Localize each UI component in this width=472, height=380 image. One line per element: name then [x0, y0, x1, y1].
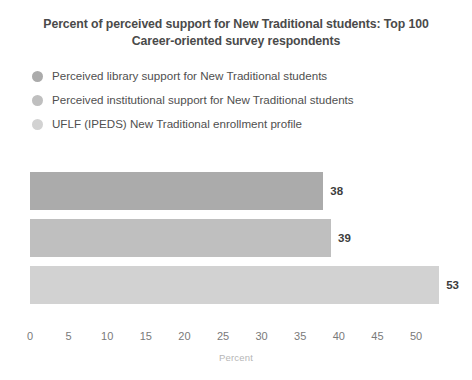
x-axis-tick-15: 15	[140, 330, 152, 342]
x-axis-tick-25: 25	[217, 330, 229, 342]
bar-chart: Percent of perceived support for New Tra…	[0, 0, 472, 380]
chart-title: Percent of perceived support for New Tra…	[14, 16, 458, 50]
bar-value-label-0: 38	[330, 185, 343, 197]
legend-label-2: UFLF (IPEDS) New Traditional enrollment …	[52, 117, 302, 131]
chart-title-line-2: Career-oriented survey respondents	[14, 33, 458, 50]
bar-value-label-2: 53	[446, 279, 459, 291]
x-axis-tick-30: 30	[255, 330, 267, 342]
bar-value-label-1: 39	[338, 232, 351, 244]
legend-label-0: Perceived library support for New Tradit…	[52, 69, 327, 83]
x-axis: 05101520253035404550	[30, 330, 442, 346]
x-axis-tick-20: 20	[178, 330, 190, 342]
x-axis-tick-50: 50	[410, 330, 422, 342]
x-axis-tick-35: 35	[294, 330, 306, 342]
x-axis-tick-45: 45	[371, 330, 383, 342]
plot-area: 38 39 53	[30, 170, 442, 315]
chart-title-line-1: Percent of perceived support for New Tra…	[14, 16, 458, 33]
bar-uflf-enrollment-profile[interactable]	[30, 266, 439, 304]
chart-legend: Perceived library support for New Tradit…	[32, 64, 462, 136]
x-axis-label: Percent	[30, 352, 442, 363]
legend-label-1: Perceived institutional support for New …	[52, 93, 354, 107]
x-axis-tick-10: 10	[101, 330, 113, 342]
legend-swatch-icon-0	[32, 71, 43, 82]
legend-item-library-support[interactable]: Perceived library support for New Tradit…	[32, 64, 462, 88]
x-axis-tick-0: 0	[27, 330, 33, 342]
legend-item-institutional-support[interactable]: Perceived institutional support for New …	[32, 88, 462, 112]
bar-institutional-support[interactable]	[30, 219, 331, 257]
legend-item-uflf-enrollment-profile[interactable]: UFLF (IPEDS) New Traditional enrollment …	[32, 112, 462, 136]
x-axis-tick-5: 5	[66, 330, 72, 342]
bar-library-support[interactable]	[30, 172, 323, 210]
legend-swatch-icon-1	[32, 95, 43, 106]
legend-swatch-icon-2	[32, 119, 43, 130]
x-axis-tick-40: 40	[333, 330, 345, 342]
